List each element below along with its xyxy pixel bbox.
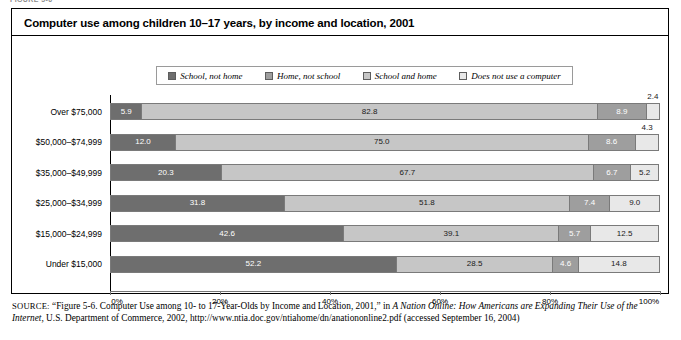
legend-swatch-icon [363,72,371,80]
bar-segment: 82.8 [142,103,597,120]
legend-swatch-icon [459,72,467,80]
x-axis-tick [220,291,221,295]
chart-legend: School, not homeHome, not schoolSchool a… [156,66,573,85]
y-axis-tick-label: $50,000–$74,999 [36,137,102,147]
source-note: SOURCE: “Figure 5-6. Computer Use among … [12,300,670,325]
bar-segment-value: 8.6 [606,138,617,146]
y-axis-tick-label: Over $75,000 [50,107,102,117]
legend-item: Does not use a computer [459,71,561,81]
figure-number-stub: FIGURE 5-6 [10,0,53,3]
title-divider [12,35,668,36]
bar-segment-value: 4.3 [642,124,653,132]
x-axis-tick [110,291,111,295]
bar-segment-value: 14.8 [611,260,627,268]
y-axis-tick-label: $25,000–$34,999 [36,198,102,208]
bar-segment: 4.3 [636,134,660,151]
legend-swatch-icon [265,72,273,80]
bar-segment: 6.7 [594,164,631,181]
legend-item-label: Home, not school [277,71,340,81]
y-axis-tick-label: $15,000–$24,999 [36,229,102,239]
bar-row: 52.228.54.614.8 [110,256,660,273]
bar-segment: 52.2 [110,256,397,273]
bar-segment-value: 7.4 [584,199,595,207]
y-axis-labels: Over $75,000$50,000–$74,999$35,000–$49,9… [12,95,110,292]
bar-segment: 67.7 [222,164,594,181]
legend-item: School and home [363,71,437,81]
bar-segment-value: 67.7 [400,169,416,177]
bar-segment: 42.6 [110,225,344,242]
bar-segment-value: 5.9 [121,108,132,116]
legend-item: Home, not school [265,71,340,81]
bar-segment-value: 9.0 [629,199,640,207]
bar-segment: 5.7 [559,225,590,242]
bar-segment-value: 20.3 [158,169,174,177]
figure-frame: Computer use among children 10–17 years,… [11,8,669,294]
x-axis-line [110,291,660,292]
bar-segment: 39.1 [344,225,559,242]
x-axis-tick [330,291,331,295]
bar-segment-value: 6.7 [606,169,617,177]
bar-segment-value: 51.8 [419,199,435,207]
source-text-2: U.S. Department of Commerce, 2002, http:… [44,313,520,323]
bar-segment-value: 8.9 [616,108,627,116]
bar-segment: 31.8 [110,195,285,212]
bar-segment-value: 4.6 [560,260,571,268]
legend-item-label: School, not home [180,71,242,81]
bar-segment-value: 5.7 [569,230,580,238]
y-axis-tick-label: $35,000–$49,999 [36,168,102,178]
bar-row: 20.367.76.75.2 [110,164,660,181]
bar-segment-value: 82.8 [362,108,378,116]
plot-area: Over $75,000$50,000–$74,999$35,000–$49,9… [12,95,668,295]
x-axis-tick [550,291,551,295]
bar-segment-value: 12.0 [135,138,151,146]
chart-title: Computer use among children 10–17 years,… [12,9,668,29]
bar-segment: 51.8 [285,195,570,212]
bar-segment-value: 12.5 [617,230,633,238]
bar-segment: 7.4 [570,195,611,212]
legend-item: School, not home [168,71,242,81]
bar-segment-value: 39.1 [444,230,460,238]
bar-segment: 12.5 [591,225,660,242]
source-text-1: “Figure 5-6. Computer Use among 10- to 1… [50,301,393,311]
bar-segment: 8.9 [598,103,647,120]
bar-segment-value: 52.2 [246,260,262,268]
bar-segment: 75.0 [176,134,589,151]
x-axis-tick [440,291,441,295]
bar-row: 5.982.88.92.4 [110,103,660,120]
y-axis-tick-label: Under $15,000 [46,259,102,269]
bar-segment: 20.3 [110,164,222,181]
bar-row: 12.075.08.64.3 [110,134,660,151]
bar-segment: 9.0 [610,195,660,212]
bar-segment: 8.6 [589,134,636,151]
bar-segment: 4.6 [553,256,578,273]
x-axis-tick [660,291,661,295]
bar-segment-value: 5.2 [639,169,650,177]
bar-segment-value: 42.6 [219,230,235,238]
bar-segment: 5.2 [631,164,660,181]
bar-row: 31.851.87.49.0 [110,195,660,212]
bar-segment-value: 31.8 [190,199,206,207]
legend-swatch-icon [168,72,176,80]
bar-segment: 5.9 [110,103,142,120]
bar-row: 42.639.15.712.5 [110,225,660,242]
bar-segment: 28.5 [397,256,554,273]
bar-segment-value: 2.4 [647,93,658,101]
source-prefix: SOURCE: [12,301,50,311]
legend-item-label: School and home [375,71,437,81]
bar-segment: 14.8 [579,256,660,273]
bar-segment-value: 28.5 [467,260,483,268]
bar-segment: 12.0 [110,134,176,151]
bar-segment-value: 75.0 [374,138,390,146]
legend-item-label: Does not use a computer [471,71,561,81]
plot-grid: 5.982.88.92.412.075.08.64.320.367.76.75.… [110,95,660,292]
bar-segment: 2.4 [647,103,660,120]
